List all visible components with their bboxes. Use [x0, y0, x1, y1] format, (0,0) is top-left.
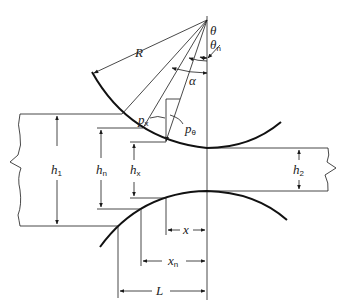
- label-h2: h2: [293, 162, 305, 178]
- label-theta: θ: [210, 23, 217, 38]
- strip-break-right: [325, 148, 336, 191]
- rolling-diagram: R θ θn α px pθ h1 hn hx h2 x xn L: [0, 0, 344, 308]
- lower-roll: [100, 191, 287, 247]
- strip-break-left: [10, 114, 21, 226]
- radius-R-line: [94, 20, 207, 73]
- upper-roll: [92, 72, 281, 148]
- neutral-radial-line: [143, 20, 207, 128]
- diagram-svg: R θ θn α px pθ h1 hn hx h2 x xn L: [0, 0, 344, 308]
- theta-n-arc: [189, 58, 207, 61]
- label-x: x: [182, 222, 189, 237]
- label-theta-n: θn: [210, 37, 221, 53]
- theta-arc: [200, 57, 207, 58]
- label-p-x: px: [137, 112, 149, 128]
- label-p-theta: pθ: [184, 121, 197, 137]
- label-xn: xn: [167, 253, 178, 269]
- label-alpha: α: [189, 73, 197, 88]
- entry-radial-line: [122, 20, 207, 114]
- label-hn: hn: [96, 162, 107, 178]
- label-h1: h1: [51, 162, 63, 178]
- label-R: R: [134, 45, 143, 60]
- label-L: L: [155, 283, 163, 298]
- p-x-leader: [150, 117, 165, 119]
- label-hx: hx: [130, 162, 141, 178]
